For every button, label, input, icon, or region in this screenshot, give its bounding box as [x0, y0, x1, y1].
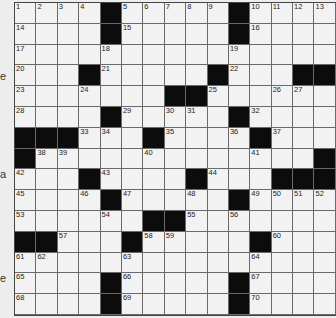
grid-cell[interactable]: 38 [36, 149, 57, 170]
grid-cell[interactable] [208, 211, 229, 232]
grid-cell[interactable] [58, 294, 79, 315]
grid-cell[interactable] [186, 294, 207, 315]
grid-cell[interactable] [208, 107, 229, 128]
grid-cell[interactable] [58, 190, 79, 211]
grid-cell[interactable] [186, 149, 207, 170]
grid-cell[interactable] [79, 24, 100, 45]
grid-cell[interactable]: 12 [293, 3, 314, 24]
grid-cell[interactable] [272, 273, 293, 294]
grid-cell[interactable] [314, 24, 335, 45]
grid-cell[interactable] [36, 211, 57, 232]
grid-cell[interactable] [165, 273, 186, 294]
grid-cell[interactable]: 22 [229, 65, 250, 86]
grid-cell[interactable]: 28 [15, 107, 36, 128]
grid-cell[interactable] [208, 149, 229, 170]
grid-cell[interactable]: 5 [122, 3, 143, 24]
grid-cell[interactable] [314, 128, 335, 149]
grid-cell[interactable] [314, 294, 335, 315]
grid-cell[interactable]: 69 [122, 294, 143, 315]
grid-cell[interactable] [186, 253, 207, 274]
grid-cell[interactable] [79, 232, 100, 253]
grid-cell[interactable] [186, 65, 207, 86]
grid-cell[interactable] [293, 45, 314, 66]
grid-cell[interactable] [79, 149, 100, 170]
grid-cell[interactable]: 65 [15, 273, 36, 294]
grid-cell[interactable]: 6 [143, 3, 164, 24]
grid-cell[interactable]: 67 [250, 273, 271, 294]
grid-cell[interactable] [250, 169, 271, 190]
grid-cell[interactable] [314, 232, 335, 253]
grid-cell[interactable] [272, 294, 293, 315]
grid-cell[interactable] [208, 253, 229, 274]
grid-cell[interactable] [293, 107, 314, 128]
grid-cell[interactable] [208, 232, 229, 253]
grid-cell[interactable] [229, 149, 250, 170]
grid-cell[interactable] [229, 232, 250, 253]
grid-cell[interactable]: 55 [186, 211, 207, 232]
grid-cell[interactable] [36, 45, 57, 66]
grid-cell[interactable]: 66 [122, 273, 143, 294]
grid-cell[interactable] [165, 149, 186, 170]
grid-cell[interactable] [58, 253, 79, 274]
grid-cell[interactable] [293, 128, 314, 149]
grid-cell[interactable] [250, 45, 271, 66]
grid-cell[interactable] [272, 253, 293, 274]
grid-cell[interactable] [101, 253, 122, 274]
grid-cell[interactable] [165, 190, 186, 211]
grid-cell[interactable] [58, 86, 79, 107]
grid-cell[interactable] [293, 253, 314, 274]
grid-cell[interactable] [314, 253, 335, 274]
grid-cell[interactable] [250, 211, 271, 232]
grid-cell[interactable] [79, 211, 100, 232]
grid-cell[interactable] [208, 190, 229, 211]
grid-cell[interactable]: 51 [293, 190, 314, 211]
grid-cell[interactable]: 2 [36, 3, 57, 24]
grid-cell[interactable] [58, 24, 79, 45]
grid-cell[interactable]: 10 [250, 3, 271, 24]
grid-cell[interactable] [58, 211, 79, 232]
grid-cell[interactable]: 11 [272, 3, 293, 24]
grid-cell[interactable] [36, 273, 57, 294]
grid-cell[interactable] [165, 169, 186, 190]
grid-cell[interactable] [143, 86, 164, 107]
grid-cell[interactable]: 1 [15, 3, 36, 24]
grid-cell[interactable] [143, 253, 164, 274]
grid-cell[interactable] [250, 86, 271, 107]
grid-cell[interactable]: 19 [229, 45, 250, 66]
grid-cell[interactable]: 37 [272, 128, 293, 149]
grid-cell[interactable]: 21 [101, 65, 122, 86]
grid-cell[interactable] [272, 24, 293, 45]
grid-cell[interactable]: 36 [229, 128, 250, 149]
grid-cell[interactable]: 14 [15, 24, 36, 45]
grid-cell[interactable]: 41 [250, 149, 271, 170]
grid-cell[interactable] [229, 169, 250, 190]
grid-cell[interactable] [143, 169, 164, 190]
grid-cell[interactable] [122, 86, 143, 107]
grid-cell[interactable]: 57 [58, 232, 79, 253]
grid-cell[interactable] [165, 65, 186, 86]
grid-cell[interactable]: 13 [314, 3, 335, 24]
grid-cell[interactable]: 70 [250, 294, 271, 315]
grid-cell[interactable]: 17 [15, 45, 36, 66]
grid-cell[interactable] [79, 45, 100, 66]
grid-cell[interactable] [143, 24, 164, 45]
grid-cell[interactable]: 58 [143, 232, 164, 253]
grid-cell[interactable] [36, 107, 57, 128]
grid-cell[interactable] [122, 65, 143, 86]
grid-cell[interactable]: 54 [101, 211, 122, 232]
grid-cell[interactable]: 26 [272, 86, 293, 107]
grid-cell[interactable]: 31 [186, 107, 207, 128]
grid-cell[interactable] [272, 45, 293, 66]
grid-cell[interactable] [314, 45, 335, 66]
grid-cell[interactable]: 32 [250, 107, 271, 128]
grid-cell[interactable] [122, 211, 143, 232]
grid-cell[interactable]: 9 [208, 3, 229, 24]
grid-cell[interactable] [165, 24, 186, 45]
grid-cell[interactable] [143, 294, 164, 315]
grid-cell[interactable]: 25 [208, 86, 229, 107]
grid-cell[interactable]: 60 [272, 232, 293, 253]
grid-cell[interactable]: 30 [165, 107, 186, 128]
grid-cell[interactable] [36, 169, 57, 190]
grid-cell[interactable] [186, 24, 207, 45]
grid-cell[interactable] [36, 86, 57, 107]
